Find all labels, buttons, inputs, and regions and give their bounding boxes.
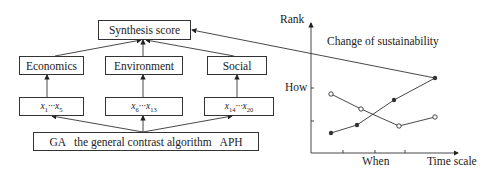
series-filled-line bbox=[331, 78, 435, 133]
arrow-social-to-synthesis bbox=[146, 40, 234, 56]
indicator-group-3-box: x14···x20 bbox=[204, 97, 274, 116]
synthesis-score-label: Synthesis score bbox=[109, 24, 180, 36]
indicator-group-1-label: x1···x5 bbox=[40, 101, 62, 113]
indicator-group-3-label: x14···x20 bbox=[225, 101, 254, 113]
criterion-social-box: Social bbox=[207, 56, 267, 75]
y-tick-label-how: How bbox=[285, 81, 307, 93]
x-axis-label: Time scale bbox=[427, 155, 477, 167]
base-algorithm-box: GA the general contrast algorithm APH bbox=[33, 132, 259, 151]
y-axis-label: Rank bbox=[280, 13, 304, 25]
criterion-environment-label: Environment bbox=[114, 60, 174, 72]
base-algorithm-label: GA the general contrast algorithm APH bbox=[49, 136, 242, 148]
x-tick-label-when: When bbox=[362, 155, 389, 167]
criterion-economics-label: Economics bbox=[26, 60, 77, 72]
chart-title: Change of sustainability bbox=[327, 35, 439, 47]
criterion-economics-box: Economics bbox=[19, 56, 84, 75]
arrow-base-to-x1 bbox=[52, 116, 143, 132]
indicator-group-2-label: x6···x13 bbox=[131, 101, 156, 113]
series-filled-markers bbox=[329, 76, 437, 135]
indicator-group-1-box: x1···x5 bbox=[19, 97, 84, 116]
criterion-social-label: Social bbox=[223, 60, 252, 72]
criterion-environment-box: Environment bbox=[105, 56, 183, 75]
arrow-base-to-x14 bbox=[143, 116, 232, 132]
indicator-group-2-box: x6···x13 bbox=[105, 97, 183, 116]
synthesis-score-box: Synthesis score bbox=[98, 20, 191, 40]
series-open-line bbox=[331, 94, 435, 126]
arrow-economics-to-synthesis bbox=[55, 40, 141, 56]
series-open-markers bbox=[329, 92, 437, 128]
